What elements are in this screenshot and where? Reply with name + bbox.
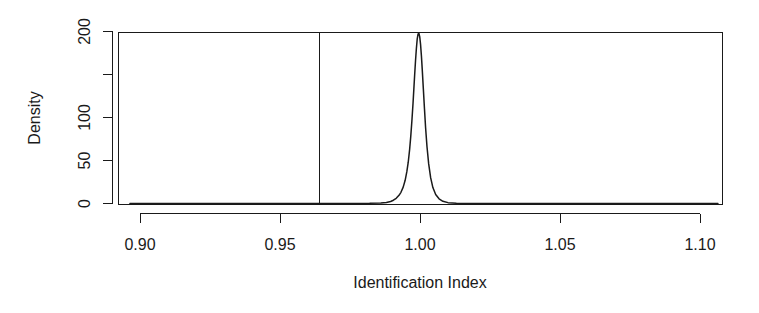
x-tick-label-0-95: 0.95: [264, 236, 295, 253]
density-plot-figure: 200 100 50 0 0.90 0.95 1.00 1.05 1.10 Id…: [0, 0, 759, 313]
x-tick-label-1-00: 1.00: [404, 236, 435, 253]
x-axis-title: Identification Index: [353, 274, 486, 291]
density-curve-series: [130, 33, 718, 203]
y-axis-title: Density: [26, 91, 43, 144]
y-tick-label-100: 100: [76, 104, 93, 131]
x-tick-label-1-10: 1.10: [684, 236, 715, 253]
plot-frame-box: [119, 33, 723, 205]
y-tick-label-200: 200: [76, 18, 93, 45]
y-tick-label-50: 50: [76, 152, 93, 170]
y-axis: 200 100 50 0: [76, 18, 113, 208]
density-curve-density: [130, 33, 718, 203]
x-tick-label-1-05: 1.05: [544, 236, 575, 253]
y-tick-label-0: 0: [76, 199, 93, 208]
density-plot-canvas: 200 100 50 0 0.90 0.95 1.00 1.05 1.10 Id…: [0, 0, 759, 313]
x-axis: 0.90 0.95 1.00 1.05 1.10: [124, 214, 715, 254]
x-tick-label-0-90: 0.90: [124, 236, 155, 253]
